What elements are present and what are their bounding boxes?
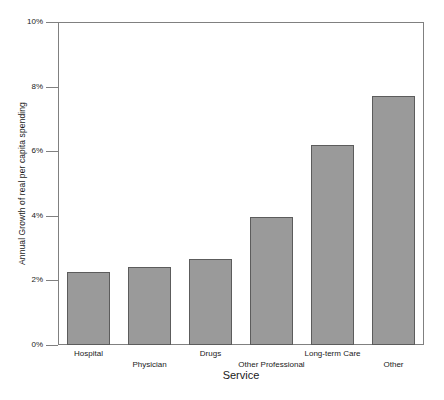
y-axis-tick-label: 6% [0,145,43,156]
x-axis-tick-label: Drugs [156,348,266,359]
y-axis-tick-mark [46,280,58,281]
bar[interactable] [250,217,294,345]
bars-layer [58,22,424,345]
y-axis-title: Annual Growth of real per capita spendin… [14,22,30,345]
y-axis-tick-mark [46,216,58,217]
y-axis-tick-mark [46,22,58,23]
y-axis-tick-label: 2% [0,274,43,285]
x-axis-tick-label: Long-term Care [278,348,388,359]
bar-chart: Annual Growth of real per capita spendin… [0,0,444,400]
bar[interactable] [311,145,355,345]
x-axis-tick-label: Hospital [34,348,144,359]
y-axis-tick-label: 10% [0,16,43,27]
y-axis-tick-mark [46,151,58,152]
y-axis-tick-label: 4% [0,210,43,221]
bar[interactable] [372,96,416,345]
bar[interactable] [128,267,172,345]
y-axis-tick-label: 8% [0,81,43,92]
bar[interactable] [67,272,111,345]
bar[interactable] [189,259,233,345]
x-axis-title: Service [58,368,424,382]
y-axis-tick-mark [46,87,58,88]
